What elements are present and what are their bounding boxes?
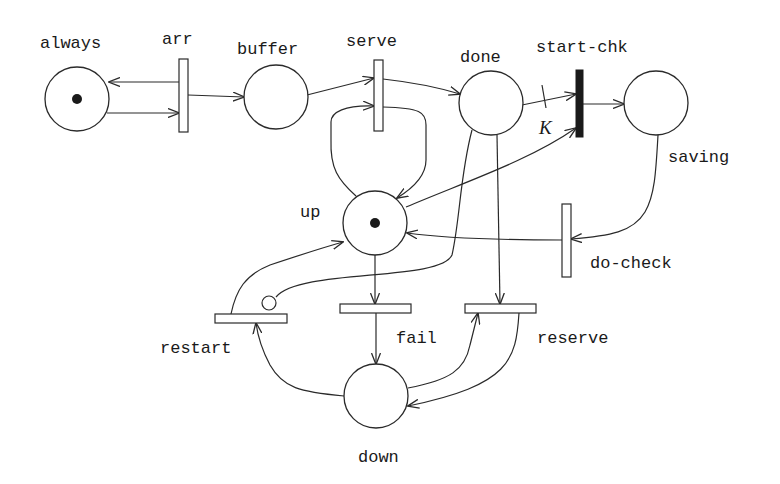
place-circle[interactable] — [244, 65, 308, 129]
arc-reserve-to-down — [408, 313, 519, 406]
timed-transition-box[interactable] — [465, 304, 536, 313]
transition-do-check[interactable] — [562, 204, 571, 277]
inhibitor-circle-icon — [262, 296, 276, 310]
arc-down-to-restart — [256, 323, 344, 396]
arc-serve-to-up — [383, 107, 426, 198]
arc-path — [231, 242, 343, 314]
arc-up-to-start-chk — [406, 128, 576, 207]
arc-path — [522, 94, 576, 105]
place-buffer[interactable] — [244, 65, 308, 129]
arc-do-check-to-up — [407, 233, 562, 240]
transition-restart[interactable] — [215, 314, 287, 323]
timed-transition-box[interactable] — [562, 204, 571, 277]
arc-restart-to-up — [231, 242, 343, 314]
transition-reserve[interactable] — [465, 304, 536, 313]
place-circle[interactable] — [344, 364, 408, 428]
transition-label-serve: serve — [346, 32, 397, 51]
petri-net-canvas: K alwaysbufferdonesavingupdownarrservest… — [0, 0, 780, 484]
arc-path — [383, 107, 426, 198]
place-circle[interactable] — [624, 71, 688, 135]
arc-saving-to-do-check — [571, 135, 658, 239]
arc-serve-to-done — [383, 79, 460, 94]
arc-path — [406, 128, 576, 207]
timed-transition-box[interactable] — [374, 60, 383, 131]
immediate-transition-bar[interactable] — [576, 70, 583, 137]
place-down[interactable] — [344, 364, 408, 428]
arc-down-to-reserve — [408, 313, 478, 388]
token-icon — [370, 218, 380, 228]
place-done[interactable] — [459, 71, 523, 135]
transition-label-fail: fail — [396, 329, 437, 348]
place-label-up: up — [300, 203, 320, 222]
arc-path — [497, 135, 500, 304]
arc-path — [307, 78, 374, 95]
arc-multiplicity-label: K — [538, 117, 553, 138]
timed-transition-box[interactable] — [215, 314, 287, 323]
transition-arr[interactable] — [179, 59, 188, 132]
arc-path — [331, 106, 374, 196]
multiplicity-tick-icon — [542, 85, 546, 108]
timed-transition-box[interactable] — [340, 304, 411, 313]
arc-path — [383, 79, 460, 94]
arc-done-to-reserve — [497, 135, 500, 304]
arc-path — [571, 135, 658, 239]
transition-label-restart: restart — [160, 339, 231, 358]
transition-label-do-check: do-check — [590, 254, 672, 273]
place-label-saving: saving — [668, 148, 729, 167]
token-icon — [72, 94, 82, 104]
place-label-always: always — [40, 34, 101, 53]
transition-serve[interactable] — [374, 60, 383, 131]
place-label-down: down — [358, 448, 399, 467]
arc-path — [256, 323, 344, 396]
arc-path — [188, 95, 244, 97]
place-up[interactable] — [343, 191, 407, 255]
timed-transition-box[interactable] — [179, 59, 188, 132]
place-always[interactable] — [45, 67, 109, 131]
arc-path — [407, 233, 562, 240]
transition-fail[interactable] — [340, 304, 411, 313]
places-layer — [45, 65, 688, 428]
arc-arr-to-buffer — [188, 95, 244, 97]
arc-path — [408, 313, 519, 406]
arc-done-to-start-chk: K — [522, 85, 576, 138]
transition-label-arr: arr — [162, 30, 193, 49]
place-label-done: done — [460, 48, 501, 67]
place-saving[interactable] — [624, 71, 688, 135]
transition-label-reserve: reserve — [537, 329, 608, 348]
place-circle[interactable] — [459, 71, 523, 135]
arc-buffer-to-serve — [307, 78, 374, 95]
transition-start-chk[interactable] — [576, 70, 583, 137]
arc-path — [408, 313, 478, 388]
place-label-buffer: buffer — [237, 40, 298, 59]
arc-up-to-serve — [331, 106, 374, 196]
transition-label-start-chk: start-chk — [536, 38, 628, 57]
